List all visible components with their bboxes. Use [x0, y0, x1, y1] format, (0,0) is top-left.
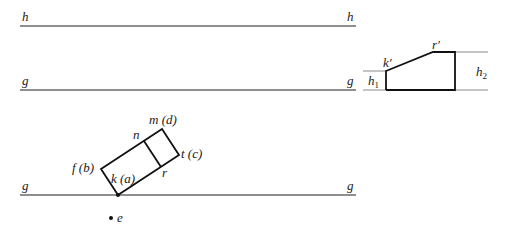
label-n: n — [133, 127, 140, 142]
label-g-middle-right: g — [347, 73, 354, 88]
label-h-left: h — [22, 9, 29, 24]
profile-outline — [386, 52, 455, 90]
label-r-prime: r′ — [432, 37, 440, 52]
label-f-b: f (b) — [72, 160, 94, 175]
label-g-middle-left: g — [22, 73, 29, 88]
label-h2: h2 — [476, 64, 487, 81]
label-m-d: m (d) — [149, 112, 177, 127]
label-h1: h1 — [368, 73, 379, 90]
label-g-bottom-left: g — [22, 178, 29, 193]
label-h-right: h — [347, 9, 354, 24]
label-k-a: k (a) — [111, 171, 135, 186]
label-e: e — [117, 210, 123, 225]
label-t-c: t (c) — [181, 146, 202, 161]
rectangle-divider-nr — [144, 141, 161, 167]
point-e-marker — [109, 216, 113, 220]
label-g-bottom-right: g — [347, 178, 354, 193]
label-k-prime: k′ — [383, 55, 392, 70]
point-k-marker — [116, 193, 120, 197]
projection-diagram: h h g g g g m (d) n t (c) f (b) k (a) r … — [0, 0, 506, 237]
label-r: r — [162, 165, 168, 180]
